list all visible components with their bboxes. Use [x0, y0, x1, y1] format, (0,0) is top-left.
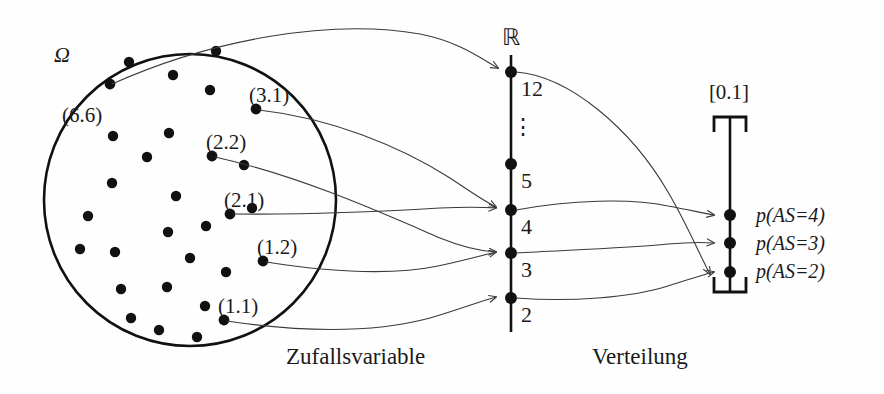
map-arrow-2-1-to-4: [233, 207, 496, 214]
sample-dot-6-6: [105, 79, 116, 90]
sample-space-group: Ω: [44, 42, 336, 346]
interval-dot-p4: [724, 209, 736, 221]
sample-dot: [83, 211, 93, 221]
sample-dot: [200, 301, 210, 311]
omega-symbol: Ω: [54, 42, 70, 67]
dist-arrow-2-to-p2: [516, 272, 714, 300]
sample-dot: [75, 244, 85, 254]
captions-group: Zufallsvariable Verteilung: [286, 344, 688, 369]
outcome-label-6-6: (6.6): [62, 103, 102, 127]
axis-label-2: 2: [521, 302, 532, 327]
distribution-mapping-arrows: [516, 72, 714, 300]
sample-dot: [205, 85, 215, 95]
axis-label-12: 12: [521, 76, 543, 101]
sample-dot: [124, 57, 134, 67]
axis-dot-5: [505, 158, 517, 170]
real-line-group: ℝ 12 ⋮ 5 4 3 2: [502, 25, 543, 332]
outcome-label-1-2: (1.2): [257, 235, 297, 259]
figure-canvas: Ω: [0, 0, 884, 394]
caption-verteilung: Verteilung: [592, 344, 688, 369]
sample-dot: [163, 227, 173, 237]
outcome-label-3-1: (3.1): [249, 83, 289, 107]
outcome-label-1-1: (1.1): [218, 294, 258, 318]
probability-label-2: p(AS=2): [754, 260, 825, 283]
dist-arrow-3-to-p3: [516, 242, 714, 253]
sample-dot: [192, 332, 202, 342]
outcome-label-2-1: (2.1): [224, 188, 264, 212]
unit-interval-label: [0.1]: [709, 80, 749, 104]
sample-dot: [142, 152, 152, 162]
sample-dot: [171, 191, 181, 201]
sample-dot: [108, 131, 118, 141]
axis-dot-3: [505, 247, 517, 259]
sample-dot: [110, 247, 120, 257]
axis-label-5: 5: [521, 168, 532, 193]
axis-dot-2: [505, 292, 517, 304]
map-arrow-1-2-to-3: [266, 252, 496, 272]
omega-circle: [44, 54, 336, 346]
axis-label-4: 4: [521, 214, 532, 239]
axis-dot-4: [505, 204, 517, 216]
sample-dot: [126, 313, 136, 323]
sample-dot: [107, 178, 117, 188]
axis-ellipsis: ⋮: [512, 114, 534, 139]
map-arrow-3-1-to-4: [259, 110, 496, 207]
caption-zufallsvariable: Zufallsvariable: [286, 344, 425, 369]
sample-dot: [221, 267, 231, 277]
sample-dot: [164, 128, 174, 138]
unit-interval-group: [0.1] p(AS=4) p(AS=3) p(AS=2): [709, 80, 825, 292]
interval-dot-p3: [724, 237, 736, 249]
sample-dot: [185, 253, 195, 263]
real-line-symbol: ℝ: [502, 25, 520, 50]
sample-dot: [201, 221, 211, 231]
probability-label-4: p(AS=4): [754, 204, 825, 227]
outcome-label-2-2: (2.2): [206, 130, 246, 154]
axis-dot-12: [505, 66, 517, 78]
sample-dot: [162, 282, 172, 292]
sample-dot: [154, 325, 164, 335]
interval-dot-p2: [724, 266, 736, 278]
sample-dot: [116, 284, 126, 294]
dist-arrow-4-to-p4: [516, 201, 714, 215]
dist-arrow-12-to-p2: [516, 72, 710, 274]
sample-dot: [168, 70, 178, 80]
random-variable-diagram: Ω: [0, 0, 884, 394]
axis-label-3: 3: [521, 257, 532, 282]
probability-label-3: p(AS=3): [754, 232, 825, 255]
labeled-sample-dots: (6.6) (3.1) (2.2) (2.1) (1.2) (1.1): [62, 79, 297, 326]
